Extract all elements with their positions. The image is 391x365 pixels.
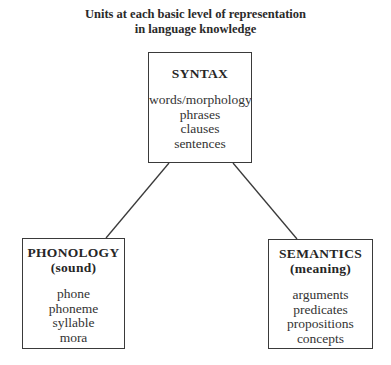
phonology-item: phone [23,287,124,302]
edge-syntax-semantics [233,163,297,239]
phonology-item: syllable [23,316,124,331]
phonology-items: phone phoneme syllable mora [23,287,124,345]
semantics-item: propositions [269,317,372,332]
syntax-item: clauses [149,122,251,137]
syntax-heading: SYNTAX [149,66,251,81]
semantics-item: concepts [269,332,372,347]
syntax-node: SYNTAX words/morphology phrases clauses … [148,52,252,163]
semantics-item: predicates [269,303,372,318]
edge-syntax-phonology [106,163,169,238]
syntax-item: words/morphology [149,93,251,108]
syntax-items: words/morphology phrases clauses sentenc… [149,93,251,151]
semantics-items: arguments predicates propositions concep… [269,288,372,346]
phonology-item: phoneme [23,302,124,317]
semantics-subheading: (meaning) [269,261,372,276]
semantics-heading: SEMANTICS [269,246,372,261]
phonology-item: mora [23,331,124,346]
syntax-item: phrases [149,108,251,123]
semantics-item: arguments [269,288,372,303]
syntax-item: sentences [149,137,251,152]
phonology-node: PHONOLOGY (sound) phone phoneme syllable… [22,238,125,349]
semantics-node: SEMANTICS (meaning) arguments predicates… [268,239,373,349]
phonology-subheading: (sound) [23,260,124,275]
phonology-heading: PHONOLOGY [23,245,124,260]
